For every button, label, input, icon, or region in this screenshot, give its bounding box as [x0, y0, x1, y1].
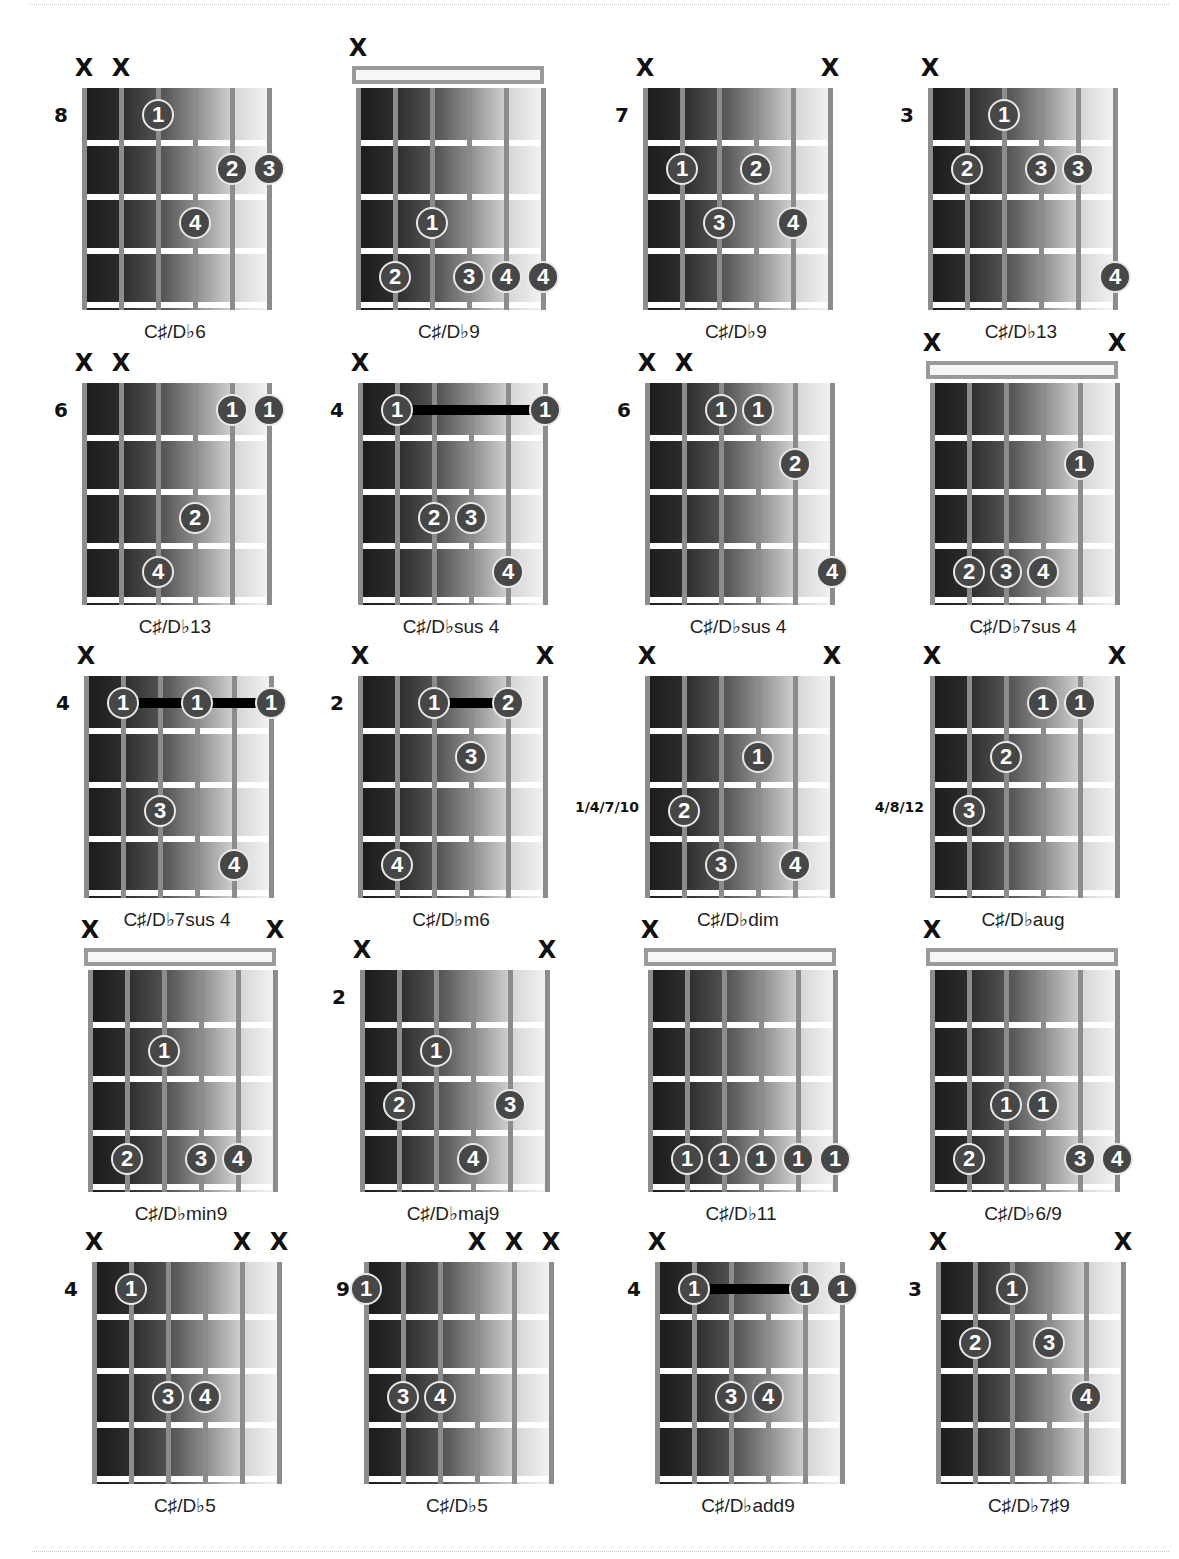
fretboard — [928, 88, 1114, 310]
fret-line — [938, 1422, 1120, 1428]
muted-string-marker: X — [343, 36, 373, 60]
string-line — [682, 383, 687, 605]
fret-line — [657, 1476, 839, 1482]
muted-string-marker: X — [917, 644, 947, 668]
chord-diagram: X11234C♯/D♭6/9 — [930, 970, 1130, 1240]
fret-line — [358, 140, 540, 146]
finger-dot: 4 — [1070, 1381, 1102, 1413]
fret-line — [358, 302, 540, 308]
fret-line — [647, 782, 829, 788]
chord-name: C♯/D♭11 — [638, 1202, 844, 1225]
string-line — [545, 970, 550, 1192]
finger-dot: 3 — [253, 153, 285, 185]
string-line — [469, 383, 474, 605]
fret-position-label: 2 — [226, 985, 346, 1009]
fret-line — [360, 489, 542, 495]
finger-dot: 4 — [816, 556, 848, 588]
string-line — [92, 1262, 97, 1484]
string-line — [643, 88, 648, 310]
chord-name: C♯/D♭sus 4 — [635, 615, 841, 638]
fret-line — [360, 890, 542, 896]
muted-string-marker: X — [1102, 331, 1132, 355]
fret-line — [94, 1314, 276, 1320]
fret-line — [932, 782, 1114, 788]
finger-dot: 2 — [953, 556, 985, 588]
string-line — [928, 88, 933, 310]
nut-bar — [84, 948, 276, 966]
fret-line — [84, 302, 266, 308]
muted-string-marker: X — [106, 56, 136, 80]
finger-dot: 1 — [1064, 687, 1096, 719]
nut-bar — [926, 948, 1118, 966]
chord-name: C♯/D♭sus 4 — [348, 615, 554, 638]
finger-dot: 2 — [951, 153, 983, 185]
chord-name: C♯/D♭dim — [635, 908, 841, 931]
finger-dot: 1 — [148, 1035, 180, 1067]
fret-line — [360, 782, 542, 788]
fret-line — [362, 1130, 544, 1136]
fret-line — [932, 890, 1114, 896]
fret-line — [360, 597, 542, 603]
fret-line — [86, 890, 268, 896]
chord-diagram: X11111C♯/D♭11 — [648, 970, 848, 1240]
finger-dot: 1 — [666, 153, 698, 185]
finger-dot: 1 — [1027, 687, 1059, 719]
fret-line — [360, 435, 542, 441]
finger-dot: 1 — [1064, 448, 1096, 480]
string-line — [754, 88, 759, 310]
finger-dot: 4 — [189, 1381, 221, 1413]
string-line — [680, 88, 685, 310]
finger-dot: 3 — [1025, 153, 1057, 185]
muted-string-marker: X — [630, 56, 660, 80]
string-line — [1041, 970, 1046, 1192]
muted-string-marker: X — [917, 918, 947, 942]
finger-dot: 4 — [142, 556, 174, 588]
fret-line — [366, 1422, 548, 1428]
chord-diagram: XX4/8/121123C♯/D♭aug — [930, 676, 1130, 946]
muted-string-marker: X — [530, 644, 560, 668]
muted-string-marker: X — [345, 351, 375, 375]
finger-dot: 3 — [455, 502, 487, 534]
string-line — [1076, 88, 1081, 310]
finger-dot: 2 — [990, 741, 1022, 773]
string-line — [166, 1262, 171, 1484]
chord-name: C♯/D♭7♯9 — [926, 1494, 1132, 1517]
string-line — [469, 676, 474, 898]
finger-dot: 3 — [703, 207, 735, 239]
fret-line — [932, 1076, 1114, 1082]
fret-line — [360, 836, 542, 842]
string-line — [936, 1262, 941, 1484]
fret-position-label: 4/8/12 — [804, 799, 924, 815]
fret-position-label: 4 — [521, 1277, 641, 1301]
fret-line — [358, 248, 540, 254]
finger-dot: 2 — [953, 1143, 985, 1175]
finger-dot: 4 — [492, 556, 524, 588]
string-line — [1121, 1262, 1126, 1484]
chord-diagram: XX61124C♯/D♭sus 4 — [645, 383, 845, 653]
fret-line — [647, 597, 829, 603]
muted-string-marker: X — [227, 1230, 257, 1254]
fret-line — [366, 1314, 548, 1320]
string-line — [830, 676, 835, 898]
chord-diagram: XX71234C♯/D♭9 — [643, 88, 843, 358]
finger-dot: 3 — [1033, 1327, 1065, 1359]
fret-position-label: 1/4/7/10 — [519, 799, 639, 815]
muted-string-marker: X — [462, 1230, 492, 1254]
finger-dot: 4 — [424, 1381, 456, 1413]
finger-dot: 1 — [1027, 1089, 1059, 1121]
finger-dot: 1 — [742, 394, 774, 426]
fret-line — [645, 248, 827, 254]
finger-dot: 4 — [1027, 556, 1059, 588]
string-line — [973, 1262, 978, 1484]
string-line — [682, 676, 687, 898]
fret-line — [84, 435, 266, 441]
nut-bar — [352, 66, 544, 84]
finger-dot: 3 — [1064, 1143, 1096, 1175]
chord-diagram: XX21234C♯/D♭maj9 — [360, 970, 560, 1240]
finger-dot: 3 — [953, 795, 985, 827]
muted-string-marker: X — [632, 644, 662, 668]
finger-dot: 3 — [152, 1381, 184, 1413]
string-line — [88, 970, 93, 1192]
finger-dot: 4 — [779, 849, 811, 881]
string-line — [358, 676, 363, 898]
